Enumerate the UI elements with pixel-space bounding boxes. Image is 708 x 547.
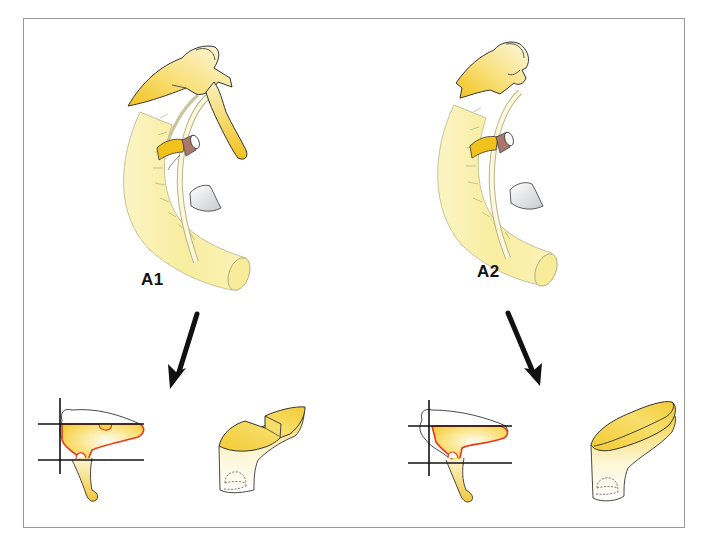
arrow-down-left-icon — [168, 314, 197, 389]
diagram-artwork — [0, 0, 708, 547]
panel-a1-cross-section — [38, 398, 144, 501]
panel-a1-main-illustration — [124, 46, 255, 293]
panel-a2-cross-section — [408, 400, 512, 502]
arrow-down-right-icon — [508, 313, 542, 386]
panel-a1-3d-model — [219, 407, 305, 493]
panel-label-a1: A1 — [141, 270, 164, 290]
panel-a2-main-illustration — [438, 42, 562, 290]
panel-a2-3d-model — [591, 402, 676, 501]
panel-label-a2: A2 — [477, 262, 500, 282]
